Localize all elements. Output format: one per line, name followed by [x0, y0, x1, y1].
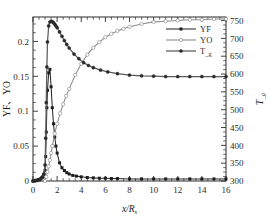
data-point: [61, 103, 64, 106]
data-point: [47, 24, 50, 27]
y-right-tick-label: 350: [230, 158, 244, 168]
y-axis-label-left: YF、YO: [2, 81, 12, 117]
data-point: [58, 30, 61, 33]
data-point: [140, 177, 143, 180]
legend-label-1: YO: [200, 35, 212, 45]
data-point: [50, 85, 53, 88]
series-line: [45, 19, 226, 181]
data-point: [212, 177, 215, 180]
data-point: [86, 176, 89, 179]
x-tick-label: 12: [173, 185, 182, 195]
x-tick-label: 6: [103, 185, 108, 195]
y-right-tick-label: 700: [230, 34, 244, 44]
data-point: [63, 39, 66, 42]
data-point: [116, 72, 119, 75]
x-tick-label: 2: [55, 185, 60, 195]
data-point: [41, 176, 44, 179]
data-point: [44, 137, 47, 140]
data-point: [110, 32, 113, 35]
data-point: [188, 177, 191, 180]
chart-svg: 024681012141600.050.10.150.2300350400450…: [0, 0, 272, 217]
data-point: [152, 177, 155, 180]
data-point: [176, 177, 179, 180]
data-point: [152, 20, 155, 23]
data-point: [52, 122, 55, 125]
data-point: [99, 69, 102, 72]
data-point: [200, 177, 203, 180]
data-point: [200, 18, 203, 21]
chart-figure: 024681012141600.050.10.150.2300350400450…: [0, 0, 272, 217]
data-point: [116, 177, 119, 180]
data-point: [164, 75, 167, 78]
data-point: [82, 61, 85, 64]
data-point: [64, 94, 67, 97]
data-point: [122, 27, 125, 30]
y-right-tick-label: 500: [230, 105, 244, 115]
data-point: [188, 75, 191, 78]
data-point: [188, 18, 191, 21]
x-tick-label: 16: [222, 185, 232, 195]
data-point: [225, 177, 228, 180]
data-point: [46, 170, 49, 173]
x-tick-label: 10: [149, 185, 159, 195]
y-left-tick-label: 0: [25, 176, 30, 186]
legend-label-2: T_g: [200, 46, 212, 57]
y-left-tick-label: 0.15: [13, 72, 29, 82]
data-point: [58, 161, 61, 164]
data-point: [74, 73, 77, 76]
data-point: [106, 70, 109, 73]
data-point: [128, 177, 131, 180]
data-point: [46, 40, 49, 43]
y-right-tick-label: 400: [230, 141, 244, 151]
x-tick-label: 4: [79, 185, 84, 195]
series-line: [33, 21, 226, 181]
data-point: [56, 26, 59, 29]
data-point: [212, 17, 215, 20]
data-point: [60, 35, 63, 38]
data-point: [164, 177, 167, 180]
data-point: [75, 175, 78, 178]
data-point: [68, 173, 71, 176]
data-point: [179, 49, 182, 52]
data-point: [104, 177, 107, 180]
data-point: [140, 22, 143, 25]
data-point: [47, 165, 50, 168]
data-point: [116, 29, 119, 32]
data-point: [71, 174, 74, 177]
data-point: [58, 112, 61, 115]
data-point: [212, 75, 215, 78]
y-right-tick-label: 750: [230, 16, 244, 26]
data-point: [92, 66, 95, 69]
data-point: [60, 166, 63, 169]
y-left-tick-label: 0.05: [13, 141, 29, 151]
series-yf: [32, 68, 228, 183]
y-left-tick-label: 0.1: [18, 106, 29, 116]
data-point: [43, 179, 46, 182]
data-point: [86, 53, 89, 56]
y-right-tick-label: 650: [230, 51, 244, 61]
data-point: [176, 19, 179, 22]
data-point: [49, 151, 52, 154]
data-point: [77, 57, 80, 60]
data-point: [92, 176, 95, 179]
data-point: [224, 75, 227, 78]
data-point: [98, 40, 101, 43]
data-point: [55, 122, 58, 125]
data-point: [104, 36, 107, 39]
data-point: [53, 132, 56, 135]
x-axis-label: x/Rs: [121, 204, 138, 215]
y-right-tick-label: 550: [230, 87, 244, 97]
data-point: [128, 25, 131, 28]
data-point: [200, 75, 203, 78]
x-tick-label: 14: [197, 185, 207, 195]
data-point: [164, 19, 167, 22]
x-tick-label: 0: [31, 185, 36, 195]
x-tick-label: 8: [127, 185, 132, 195]
data-point: [80, 175, 83, 178]
series-line: [33, 69, 226, 181]
data-point: [92, 46, 95, 49]
y-right-tick-label: 600: [230, 69, 244, 79]
data-point: [98, 177, 101, 180]
data-point: [110, 177, 113, 180]
series-t-g: [31, 20, 227, 183]
